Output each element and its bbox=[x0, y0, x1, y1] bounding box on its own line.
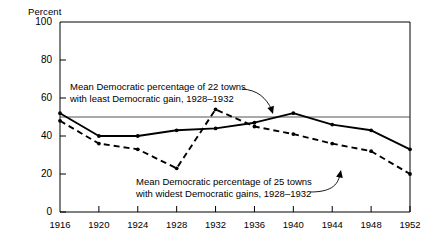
x-tick-label: 1952 bbox=[390, 219, 423, 230]
y-tick-label: 80 bbox=[22, 54, 52, 65]
y-tick-label: 100 bbox=[22, 16, 52, 27]
annotation-widest-gain-line1: Mean Democratic percentage of 25 towns bbox=[136, 176, 312, 188]
annotation-widest-gain-line2: with widest Democratic gains, 1928–1932 bbox=[136, 188, 312, 200]
x-tick-label: 1928 bbox=[157, 219, 197, 230]
x-tick-label: 1940 bbox=[273, 219, 313, 230]
y-tick-label: 60 bbox=[22, 92, 52, 103]
x-tick-label: 1920 bbox=[79, 219, 119, 230]
chart-plot-area bbox=[0, 0, 423, 242]
chart-root: Percent 020406080100 1916192019241928193… bbox=[0, 0, 423, 242]
annotation-widest-gain: Mean Democratic percentage of 25 towns w… bbox=[136, 176, 312, 199]
annotation-least-gain-line2: with least Democratic gain, 1928–1932 bbox=[70, 93, 246, 105]
y-tick-label: 0 bbox=[22, 206, 52, 217]
y-tick-label: 20 bbox=[22, 168, 52, 179]
y-tick-label: 40 bbox=[22, 130, 52, 141]
x-tick-label: 1936 bbox=[234, 219, 274, 230]
x-tick-label: 1924 bbox=[118, 219, 158, 230]
annotation-least-gain-line1: Mean Democratic percentage of 22 towns bbox=[70, 81, 246, 93]
x-tick-label: 1916 bbox=[40, 219, 80, 230]
x-tick-label: 1948 bbox=[351, 219, 391, 230]
annotation-least-gain: Mean Democratic percentage of 22 towns w… bbox=[70, 81, 246, 104]
x-tick-label: 1932 bbox=[196, 219, 236, 230]
data-series-layer bbox=[58, 108, 412, 176]
x-tick-label: 1944 bbox=[312, 219, 352, 230]
y-axis-ticks bbox=[60, 60, 66, 212]
x-axis-ticks bbox=[99, 206, 410, 212]
